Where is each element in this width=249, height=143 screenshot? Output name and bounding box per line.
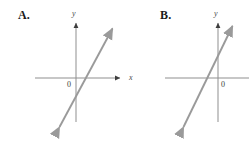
graph-line-b bbox=[184, 26, 233, 127]
y-axis-label-b: y bbox=[214, 10, 218, 18]
two-panel-graph-figure: A. y x 0 B. bbox=[0, 0, 249, 143]
coordinate-plane-a bbox=[0, 0, 145, 143]
x-axis-label-a: x bbox=[129, 74, 133, 82]
origin-label-b: 0 bbox=[221, 81, 225, 89]
origin-label-a: 0 bbox=[67, 81, 71, 89]
graph-panel-a: A. y x 0 bbox=[0, 0, 145, 143]
y-axis-label-a: y bbox=[72, 10, 76, 18]
graph-panel-b: B. y 0 bbox=[145, 0, 249, 143]
coordinate-plane-b bbox=[145, 0, 249, 143]
